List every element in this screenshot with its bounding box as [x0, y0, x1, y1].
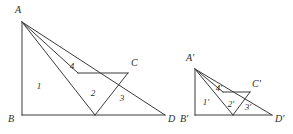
vertex-label-A-prime: A' [185, 52, 195, 63]
region-label-2: 2 [91, 88, 96, 98]
right-figure: A' B' C' D' 1' 2' 3' 4' [180, 52, 285, 124]
left-figure: A B C D 1 2 3 4 [8, 4, 176, 124]
vertex-label-C-prime: C' [252, 78, 262, 89]
region-label-1-prime: 1' [203, 97, 211, 107]
region-label-4: 4 [70, 61, 75, 71]
segment-AE [22, 22, 95, 115]
region-label-3-prime: 3' [244, 102, 253, 112]
vertex-label-B: B [8, 113, 14, 124]
region-label-4-prime: 4' [216, 83, 224, 93]
region-label-2-prime: 2' [228, 99, 236, 109]
region-label-3: 3 [119, 93, 125, 103]
segment-AD [22, 22, 165, 115]
vertex-label-B-prime: B' [180, 113, 189, 124]
vertex-label-D: D [167, 113, 176, 124]
vertex-label-C: C [131, 57, 138, 68]
geometry-diagram: A B C D 1 2 3 4 A' B' C' D' 1' 2' 3' 4' [0, 0, 293, 134]
region-label-1: 1 [37, 81, 42, 91]
vertex-label-A: A [14, 4, 22, 15]
vertex-label-D-prime: D' [274, 113, 285, 124]
